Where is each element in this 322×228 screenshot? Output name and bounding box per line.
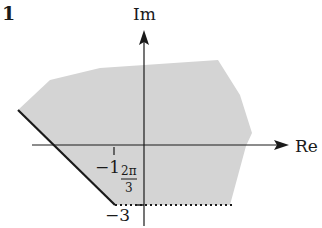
shaded-region [18, 60, 252, 205]
complex-plane-diagram: 1 Im Re −1 2π 3 −3 [0, 0, 322, 228]
angle-numerator: 2π [121, 164, 137, 178]
real-axis-label: Re [295, 136, 318, 156]
imaginary-axis-label: Im [133, 4, 156, 24]
minus-three-label: −3 [105, 205, 130, 225]
figure-number: 1 [2, 2, 15, 24]
angle-denominator: 3 [125, 181, 133, 195]
minus-one-label: −1 [95, 157, 120, 177]
